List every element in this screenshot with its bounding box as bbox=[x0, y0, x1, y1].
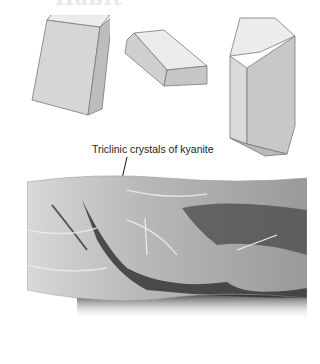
kyanite-specimen-photo bbox=[27, 170, 307, 320]
